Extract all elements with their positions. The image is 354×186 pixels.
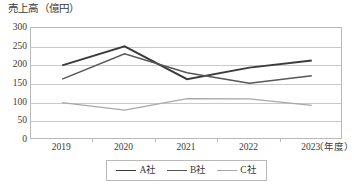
y-tick-label: 100 <box>13 97 27 107</box>
line-chart: 売上高（億円） 300250200150100500 2019202020212… <box>0 0 354 186</box>
x-axis: 20192020202120222023 <box>30 141 342 155</box>
y-tick-label: 0 <box>22 134 27 144</box>
y-axis: 300250200150100500 <box>0 27 27 139</box>
y-tick-label: 250 <box>13 41 27 51</box>
legend-label: A社 <box>139 165 156 176</box>
x-tick-label: 2022 <box>239 141 258 153</box>
y-tick-label: 50 <box>18 115 28 125</box>
x-tick-label: 2020 <box>114 141 133 153</box>
legend-line-swatch <box>116 170 136 171</box>
y-tick-label: 300 <box>13 22 27 32</box>
series-container <box>31 28 343 140</box>
chart-title: 売上高（億円） <box>8 3 79 15</box>
legend-label: B社 <box>190 165 206 176</box>
x-tick-label: 2019 <box>52 141 71 153</box>
legend-item[interactable]: A社 <box>116 165 156 176</box>
y-tick-label: 150 <box>13 78 27 88</box>
y-tick-label: 200 <box>13 59 27 69</box>
series-line <box>62 46 312 79</box>
legend-label: C社 <box>240 165 256 176</box>
x-axis-unit-label: （年度） <box>314 141 354 153</box>
x-tick-label: 2021 <box>177 141 196 153</box>
legend-item[interactable]: C社 <box>217 165 256 176</box>
plot-area <box>30 27 342 139</box>
legend-line-swatch <box>217 170 237 171</box>
legend-item[interactable]: B社 <box>167 165 206 176</box>
series-line <box>62 99 312 111</box>
chart-legend: A社B社C社 <box>106 160 267 181</box>
legend-line-swatch <box>167 170 187 171</box>
